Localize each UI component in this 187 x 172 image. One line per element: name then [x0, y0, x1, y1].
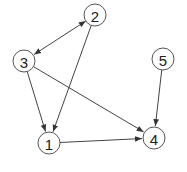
edges-layer	[27, 21, 162, 142]
node-1: 1	[38, 132, 60, 154]
edge-2-to-1	[53, 25, 91, 131]
edge-3-to-4	[33, 67, 143, 132]
edge-3-to-1	[27, 72, 45, 132]
node-4: 4	[143, 127, 165, 149]
node-2: 2	[84, 4, 106, 26]
nodes-layer: 12345	[13, 4, 174, 154]
node-label: 2	[91, 8, 99, 25]
node-label: 1	[45, 136, 53, 153]
edge-2-to-3	[34, 21, 86, 54]
node-label: 4	[150, 131, 158, 148]
node-label: 3	[20, 54, 28, 71]
graph-diagram: 12345	[0, 0, 187, 172]
node-3: 3	[13, 50, 35, 72]
edge-1-to-4	[60, 139, 142, 143]
edge-5-to-4	[155, 70, 161, 126]
node-label: 5	[159, 52, 167, 69]
node-5: 5	[152, 48, 174, 70]
